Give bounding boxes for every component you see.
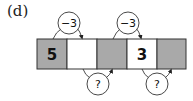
cell-3 <box>97 39 127 69</box>
top-arrow-1 <box>53 29 61 39</box>
bottom-operator-2-text: ? <box>154 78 160 91</box>
cell-4-value: 3 <box>137 46 147 64</box>
strip-svg: 5 3 −3 −3 ? ? <box>0 0 193 101</box>
bottom-arrow-2 <box>142 69 149 78</box>
top-operator-1-text: −3 <box>61 17 77 30</box>
cell-5 <box>157 39 186 69</box>
number-strip-diagram: (d) 5 3 −3 −3 ? ? <box>0 0 193 101</box>
top-operator-2-text: −3 <box>120 17 136 30</box>
bottom-operator-1-text: ? <box>95 78 101 91</box>
bottom-arrow-1 <box>83 69 90 78</box>
top-arrow-2 <box>113 29 120 39</box>
cell-2 <box>67 39 97 69</box>
cell-1-value: 5 <box>47 46 57 64</box>
